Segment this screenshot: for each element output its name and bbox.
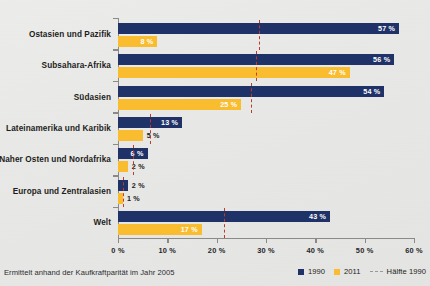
bar-group: Lateinamerika und Karibik13 %5 % xyxy=(118,112,414,143)
legend-label-half-1990: Hälfte 1990 xyxy=(387,267,426,276)
bar-value-label: 17 % xyxy=(181,224,198,235)
legend-item-half-1990: Hälfte 1990 xyxy=(370,267,426,276)
legend-item-1990: 1990 xyxy=(298,267,325,276)
bar-group: Europa und Zentralasien2 %1 % xyxy=(118,175,414,206)
bar-value-label: 56 % xyxy=(373,54,390,65)
legend-label-2011: 2011 xyxy=(344,267,361,276)
bar-value-label: 2 % xyxy=(132,180,145,191)
bar-value-label: 57 % xyxy=(378,23,395,34)
legend-dashed-line-icon xyxy=(370,271,383,272)
bar-1990: 57 % xyxy=(118,23,399,34)
legend-item-2011: 2011 xyxy=(334,267,361,276)
bar-1990: 2 % xyxy=(118,180,128,191)
bar-group: Naher Osten und Nordafrika6 %2 % xyxy=(118,144,414,175)
bar-value-label: 1 % xyxy=(127,193,140,204)
plot-area: 0 %10 %20 %30 %40 %50 %60 % Ostasien und… xyxy=(118,18,414,238)
category-label: Welt xyxy=(93,218,111,227)
x-tick-label: 20 % xyxy=(208,246,226,255)
x-tick xyxy=(217,238,218,243)
legend-label-1990: 1990 xyxy=(308,267,325,276)
bar-value-label: 6 % xyxy=(131,148,144,159)
bar-value-label: 2 % xyxy=(132,161,145,172)
chart-legend: 1990 2011 Hälfte 1990 xyxy=(298,267,426,276)
bar-value-label: 25 % xyxy=(220,99,237,110)
bar-group: Südasien54 %25 % xyxy=(118,81,414,112)
bar-group: Subsahara-Afrika56 %47 % xyxy=(118,49,414,80)
bar-2011: 1 % xyxy=(118,193,123,204)
chart-page: 0 %10 %20 %30 %40 %50 %60 % Ostasien und… xyxy=(0,0,430,286)
bar-2011: 5 % xyxy=(118,130,143,141)
x-tick-label: 40 % xyxy=(307,246,325,255)
bar-2011: 2 % xyxy=(118,161,128,172)
category-label: Europa und Zentralasien xyxy=(13,187,111,196)
category-label: Naher Osten und Nordafrika xyxy=(0,155,111,164)
x-tick-label: 30 % xyxy=(257,246,275,255)
x-tick xyxy=(365,238,366,243)
bar-value-label: 54 % xyxy=(363,86,380,97)
bar-2011: 25 % xyxy=(118,99,241,110)
bar-1990: 13 % xyxy=(118,117,182,128)
category-label: Ostasien und Pazifik xyxy=(29,30,111,39)
bar-value-label: 5 % xyxy=(147,130,160,141)
bar-2011: 47 % xyxy=(118,67,350,78)
category-label: Lateinamerika und Karibik xyxy=(6,124,111,133)
bar-1990: 54 % xyxy=(118,86,384,97)
bar-value-label: 43 % xyxy=(309,211,326,222)
x-tick xyxy=(315,238,316,243)
footnote: Ermittelt anhand der Kaufkraftparität im… xyxy=(4,268,175,277)
bar-value-label: 47 % xyxy=(329,67,346,78)
bar-1990: 43 % xyxy=(118,211,330,222)
x-tick xyxy=(414,238,415,243)
x-tick xyxy=(167,238,168,243)
bar-1990: 6 % xyxy=(118,148,148,159)
bar-group: Welt43 %17 % xyxy=(118,207,414,238)
x-tick-label: 60 % xyxy=(405,246,423,255)
legend-swatch-1990-icon xyxy=(298,269,304,275)
bar-2011: 8 % xyxy=(118,36,157,47)
x-tick-label: 0 % xyxy=(111,246,124,255)
category-label: Subsahara-Afrika xyxy=(42,61,111,70)
bar-2011: 17 % xyxy=(118,224,202,235)
bar-1990: 56 % xyxy=(118,54,394,65)
bar-value-label: 13 % xyxy=(161,117,178,128)
x-tick xyxy=(266,238,267,243)
bar-value-label: 8 % xyxy=(140,36,153,47)
x-tick-label: 10 % xyxy=(159,246,177,255)
category-label: Südasien xyxy=(74,93,111,102)
legend-swatch-2011-icon xyxy=(334,269,340,275)
x-tick xyxy=(118,238,119,243)
x-tick-label: 50 % xyxy=(356,246,374,255)
bar-group: Ostasien und Pazifik57 %8 % xyxy=(118,18,414,49)
